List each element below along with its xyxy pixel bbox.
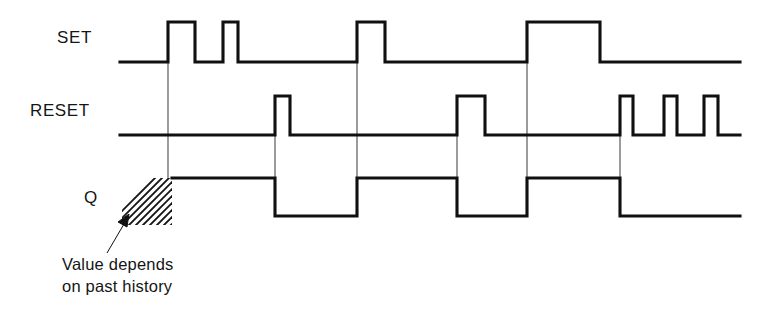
- annotation-line-1: Value depends: [62, 255, 173, 273]
- signal-label-reset: RESET: [30, 101, 90, 120]
- waveform-reset: [120, 96, 740, 135]
- annotation-line-2: on past history: [62, 277, 173, 295]
- signal-label-q: Q: [84, 188, 98, 207]
- guide-lines: [168, 62, 620, 216]
- timing-diagram-svg: SET RESET Q Value d: [0, 0, 763, 309]
- timing-diagram-figure: SET RESET Q Value d: [0, 0, 763, 309]
- annotation-arrow: [107, 214, 129, 253]
- signal-label-set: SET: [57, 28, 92, 47]
- waveform-q: [172, 178, 740, 216]
- waveform-set: [120, 22, 740, 62]
